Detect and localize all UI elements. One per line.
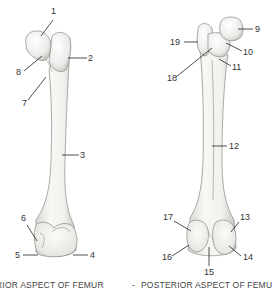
label-2: 2: [88, 53, 93, 63]
femur-diagram: 1 2 3 4 5 6 7 8 9 10 11 12 13 14 15 16 1…: [0, 0, 279, 290]
label-9: 9: [255, 24, 260, 34]
label-14: 14: [243, 252, 253, 262]
label-7: 7: [22, 98, 27, 108]
label-3: 3: [80, 150, 85, 160]
posterior-femur: [187, 17, 243, 256]
anterior-femur: [26, 31, 77, 257]
label-4: 4: [90, 250, 95, 260]
label-17: 17: [163, 212, 173, 222]
label-5: 5: [15, 250, 20, 260]
label-6: 6: [21, 213, 26, 223]
label-15: 15: [204, 267, 214, 277]
caption-separator: -: [132, 280, 135, 290]
label-13: 13: [240, 212, 250, 222]
label-16: 16: [162, 252, 172, 262]
caption-posterior: POSTERIOR ASPECT OF FEMU: [141, 280, 272, 290]
label-19: 19: [170, 37, 180, 47]
label-12: 12: [229, 141, 239, 151]
label-8: 8: [16, 67, 21, 77]
label-18: 18: [167, 73, 177, 83]
caption-anterior: RIOR ASPECT OF FEMUR: [0, 280, 104, 290]
label-11: 11: [232, 62, 241, 72]
label-10: 10: [243, 47, 253, 57]
label-1: 1: [51, 6, 56, 16]
